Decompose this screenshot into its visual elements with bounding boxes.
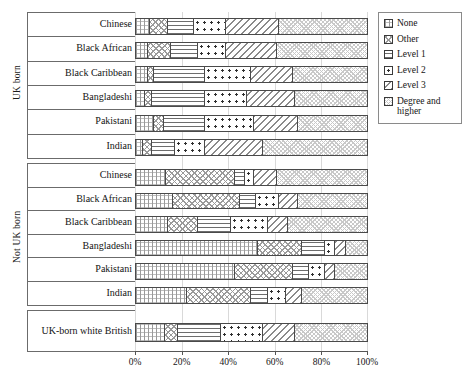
bar-segment-degree-and-higher: [277, 43, 367, 58]
bar-segment-none: [136, 91, 145, 106]
bar-segment-other: [235, 264, 293, 279]
bar-segment-degree-and-higher: [295, 324, 367, 341]
group-rule-white-british: [27, 310, 28, 352]
bar-segment-level-2: [309, 264, 325, 279]
category-label-nonuk-black-african: Black African: [29, 193, 132, 205]
bar-segment-none: [136, 288, 187, 303]
bar-segment-other: [150, 19, 168, 34]
category-label-nonuk-indian: Indian: [29, 287, 132, 299]
bar-segment-level-2: [231, 217, 268, 232]
bar-segment-level-3: [251, 67, 293, 82]
category-label-uk-chinese: Chinese: [29, 18, 132, 30]
legend-swatch-level-2-icon: [384, 66, 393, 75]
bar-segment-level-2: [325, 241, 334, 256]
chart-figure: UK born Not UK born Chinese Black Africa…: [0, 0, 468, 377]
bar-segment-level-1: [240, 194, 256, 209]
bar-segment-level-1: [164, 116, 206, 131]
x-tick: [275, 351, 276, 355]
bar-segment-none: [136, 194, 173, 209]
bar-segment-none: [136, 324, 165, 341]
category-label-uk-black-caribbean: Black Caribbean: [29, 67, 132, 79]
row-separator: [27, 187, 136, 188]
bar-segment-level-1: [251, 288, 267, 303]
x-tick: [321, 351, 322, 355]
category-label-uk-pakistani: Pakistani: [29, 115, 132, 127]
x-tick: [135, 351, 136, 355]
bar-row: [135, 90, 368, 107]
legend-label-level-3: Level 3: [397, 80, 426, 91]
row-separator: [27, 109, 136, 110]
category-label-nonuk-black-caribbean: Black Caribbean: [29, 216, 132, 228]
legend-label-other: Other: [397, 34, 419, 45]
category-label-uk-indian: Indian: [29, 140, 132, 152]
row-separator: [27, 234, 136, 235]
row-separator: [27, 36, 136, 37]
bar-segment-none: [136, 140, 143, 155]
bar-segment-level-1: [154, 67, 205, 82]
bar-segment-degree-and-higher: [346, 241, 367, 256]
bar-segment-none: [136, 19, 150, 34]
bar-segment-degree-and-higher: [293, 67, 367, 82]
bar-segment-level-2: [205, 67, 251, 82]
category-label-uk-bangladeshi: Bangladeshi: [29, 91, 132, 103]
bar-segment-level-3: [335, 241, 347, 256]
group-label-not-uk-born: Not UK born: [12, 172, 24, 302]
bar-segment-other: [148, 43, 171, 58]
bar-segment-none: [136, 116, 154, 131]
legend-swatch-none-icon: [384, 19, 393, 28]
bar-segment-level-1: [302, 241, 325, 256]
bar-segment-level-2: [205, 116, 254, 131]
bar-row: [135, 66, 368, 83]
bar-segment-degree-and-higher: [298, 194, 367, 209]
bar-segment-degree-and-higher: [263, 140, 367, 155]
bar-segment-level-2: [194, 19, 226, 34]
bar-segment-level-3: [325, 264, 334, 279]
separator-not-uk-born-top: [27, 163, 136, 164]
bar-row: [135, 115, 368, 132]
bar-segment-level-3: [226, 19, 279, 34]
bar-segment-level-3: [226, 43, 277, 58]
bar-row: [135, 216, 368, 233]
bar-segment-level-2: [245, 170, 254, 185]
bar-segment-level-1: [178, 324, 222, 341]
x-tick-label-60: 60%: [255, 357, 295, 367]
separator-bottom: [27, 351, 136, 352]
bar-segment-level-2: [221, 324, 263, 341]
bar-row: [135, 18, 368, 35]
category-label-nonuk-chinese: Chinese: [29, 169, 132, 181]
bar-segment-degree-and-higher: [335, 264, 367, 279]
legend-label-level-1: Level 1: [397, 49, 426, 60]
bar-row: [135, 240, 368, 257]
legend-item-level-2: Level 2: [384, 65, 457, 76]
bar-segment-level-3: [247, 91, 296, 106]
row-separator: [27, 61, 136, 62]
bar-segment-none: [136, 43, 148, 58]
bar-segment-level-1: [293, 264, 309, 279]
legend-label-none: None: [397, 18, 418, 29]
bar-segment-other: [258, 241, 302, 256]
bar-segment-other: [145, 91, 152, 106]
x-tick-label-20: 20%: [162, 357, 202, 367]
legend-label-level-2: Level 2: [397, 65, 426, 76]
legend-label-degree-and-higher: Degree and higher: [397, 96, 457, 117]
bar-segment-level-2: [256, 194, 279, 209]
bar-segment-level-2: [268, 288, 286, 303]
bar-segment-level-1: [171, 43, 199, 58]
bar-segment-degree-and-higher: [298, 116, 367, 131]
bar-segment-none: [136, 241, 258, 256]
bar-segment-level-2: [205, 91, 247, 106]
bar-row: [135, 263, 368, 280]
plot-area: 0% 20% 40% 60% 80% 100%: [135, 12, 368, 351]
bar-segment-other: [187, 288, 252, 303]
bar-segment-degree-and-higher: [302, 288, 367, 303]
category-label-uk-born-white-british: UK-born white British: [29, 325, 132, 337]
legend-swatch-level-3-icon: [384, 81, 393, 90]
x-tick-label-40: 40%: [208, 357, 248, 367]
bar-row: [135, 287, 368, 304]
bar-segment-degree-and-higher: [279, 19, 367, 34]
bar-segment-level-1: [168, 19, 193, 34]
bar-row: [135, 323, 368, 342]
separator-white-british-top: [27, 310, 136, 311]
bar-segment-level-3: [279, 194, 297, 209]
bar-row: [135, 193, 368, 210]
